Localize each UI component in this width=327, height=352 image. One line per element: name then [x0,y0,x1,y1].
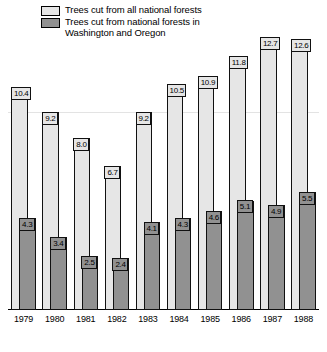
bar-group: 8.02.5 [74,18,99,310]
x-axis-tick-label: 1986 [226,313,257,325]
bar-group: 6.72.4 [105,18,130,310]
bar-value-label: 11.8 [229,56,248,69]
bar-washington-oregon: 4.3 [175,218,192,310]
bar-washington-oregon: 2.5 [82,256,99,310]
legend-item-all-national-forests: Trees cut from all national forests [41,5,241,16]
bar-washington-oregon: 4.6 [206,211,223,310]
bar-value-label: 10.5 [167,84,187,97]
bar-value-label: 9.2 [136,112,152,125]
bar-washington-oregon: 2.4 [113,258,130,310]
bar-value-label: 4.3 [175,218,191,231]
bar-group: 12.65.5 [291,18,316,310]
plot-area: 10.44.39.23.48.02.56.72.49.24.110.54.310… [8,18,319,310]
bar-group: 9.24.1 [136,18,161,310]
bar-value-label: 2.4 [112,258,128,271]
bar-group: 10.44.3 [11,18,36,310]
bar-group: 10.54.3 [167,18,192,310]
bar-group: 11.85.1 [229,18,254,310]
bar-group: 9.23.4 [42,18,67,310]
bar-value-label: 4.3 [19,218,35,231]
bar-value-label: 12.6 [291,39,311,52]
bar-value-label: 10.9 [198,76,218,89]
x-axis-tick-label: 1985 [195,313,226,325]
bar-value-label: 9.2 [42,112,58,125]
bar-group: 10.94.6 [198,18,223,310]
bar-washington-oregon: 5.5 [299,192,316,310]
bar-value-label: 10.4 [11,87,31,100]
bar-washington-oregon: 4.1 [144,222,161,310]
bar-group: 12.74.9 [260,18,285,310]
bar-value-label: 4.9 [268,205,284,218]
x-axis: 1979198019811982198319841985198619871988 [8,313,319,327]
bar-chart: Trees cut from all national forests Tree… [0,0,327,352]
x-axis-tick-label: 1983 [132,313,163,325]
bar-washington-oregon: 3.4 [50,237,67,310]
light-gray-swatch-icon [41,6,60,16]
bar-washington-oregon: 5.1 [237,201,254,311]
x-axis-tick-label: 1982 [101,313,132,325]
x-axis-tick-label: 1979 [8,313,39,325]
x-axis-tick-label: 1984 [164,313,195,325]
bar-value-label: 5.1 [237,200,253,213]
x-axis-tick-label: 1988 [288,313,319,325]
x-axis-tick-label: 1987 [257,313,288,325]
bar-value-label: 12.7 [260,37,280,50]
bar-value-label: 4.6 [206,211,222,224]
bar-value-label: 5.5 [299,192,315,205]
bar-value-label: 2.5 [81,256,97,269]
bar-washington-oregon: 4.3 [19,218,36,310]
legend-item-label: Trees cut from all national forests [65,5,202,16]
bar-value-label: 8.0 [73,138,89,151]
bar-value-label: 4.1 [144,222,160,235]
bar-value-label: 3.4 [50,237,66,250]
x-axis-tick-label: 1980 [39,313,70,325]
bar-value-label: 6.7 [104,166,120,179]
x-axis-tick-label: 1981 [70,313,101,325]
bar-washington-oregon: 4.9 [268,205,285,310]
